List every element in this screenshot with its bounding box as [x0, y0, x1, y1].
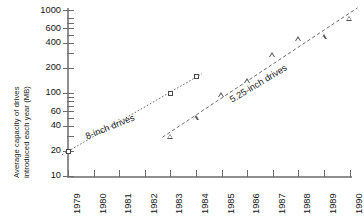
data-point-square-1984 — [194, 74, 199, 79]
data-point-square-1983 — [168, 91, 173, 96]
data-point-triangle-1987 — [269, 52, 275, 57]
data-point-triangle-1984 — [193, 115, 199, 120]
data-point-triangle-1988 — [295, 36, 301, 41]
data-point-square-1979 — [66, 149, 71, 154]
data-point-triangle-1990 — [346, 16, 352, 21]
data-point-triangle-1983 — [167, 134, 173, 139]
data-point-triangle-1985 — [218, 92, 224, 97]
data-point-triangle-1989 — [321, 34, 327, 39]
